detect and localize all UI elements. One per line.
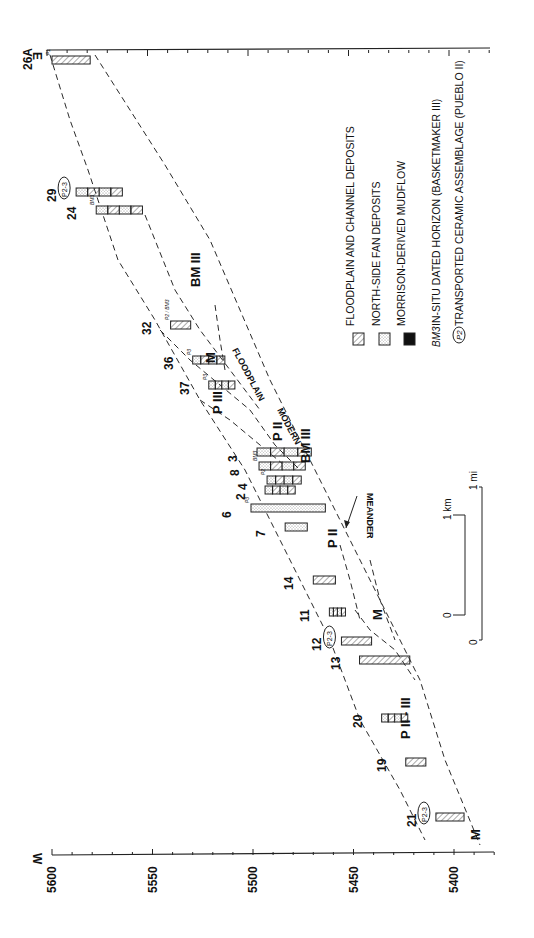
mi-one-label: 1 mi bbox=[468, 471, 479, 490]
section-column-19: 19 bbox=[375, 758, 426, 772]
fan-swatch bbox=[379, 333, 390, 345]
section-label: 29 bbox=[45, 188, 59, 202]
section-column-7: 7 bbox=[254, 523, 307, 537]
svg-text:P2-3: P2-3 bbox=[61, 182, 68, 197]
floodplain-swatch bbox=[353, 333, 364, 345]
section-label: 19 bbox=[375, 758, 389, 772]
legend-item-bm3: BM3 IN-SITU DATED HORIZON (BASKETMAKER I… bbox=[430, 99, 442, 347]
svg-text:P2-3: P2-3 bbox=[421, 807, 428, 822]
meander-arrowhead-icon bbox=[344, 520, 350, 528]
section-label: 3 bbox=[226, 455, 240, 462]
unit-label: P II bbox=[325, 529, 340, 548]
bm3-symbol: BM3 bbox=[431, 326, 442, 347]
horizon-annotation: BM3 bbox=[89, 195, 95, 206]
section-label: 11 bbox=[298, 609, 312, 622]
section-label: 14 bbox=[282, 576, 296, 590]
p2-symbol: P2 bbox=[455, 330, 464, 340]
legend-label-bm3: IN-SITU DATED HORIZON (BASKETMAKER III) bbox=[430, 99, 442, 326]
legend: FLOODPLAIN AND CHANNEL DEPOSITS NORTH-SI… bbox=[344, 60, 465, 347]
west-elevation-axis: 56005550550054505400 bbox=[45, 849, 494, 893]
section-column-12: 12P2-3 bbox=[310, 626, 371, 651]
section-column-21: 21P2-3 bbox=[405, 802, 464, 827]
section-label: 32 bbox=[140, 321, 154, 335]
km-one-label: 1 km bbox=[442, 498, 453, 520]
section-column-26A: 26AP1 bbox=[21, 48, 90, 70]
unit-label: P II bbox=[270, 422, 285, 441]
section-column-29: 29P2-3 bbox=[45, 177, 122, 202]
horizon-annotation: P2 bbox=[260, 469, 266, 475]
km-scale-line bbox=[453, 515, 465, 615]
section-label: 26A bbox=[21, 48, 35, 70]
legend-label-floodplain: FLOODPLAIN AND CHANNEL DEPOSITS bbox=[344, 126, 356, 326]
geologic-cross-section: 56005550550054505400 E W FLOODPLAIN MODE… bbox=[0, 0, 534, 938]
east-elevation-axis bbox=[47, 48, 490, 56]
legend-label-mudflow: MORRISON-DERIVED MUDFLOW bbox=[395, 161, 407, 326]
horizon-annotation: P1 bbox=[45, 49, 51, 55]
elevation-tick-label: 5500 bbox=[246, 866, 260, 893]
section-label: 20 bbox=[351, 714, 365, 728]
legend-item-fan: NORTH-SIDE FAN DEPOSITS bbox=[370, 182, 390, 346]
meander-label: MEANDER bbox=[365, 493, 375, 539]
legend-item-p2: P2 TRANSPORTED CERAMIC ASSEMBLAGE (PUEBL… bbox=[453, 60, 465, 343]
elevation-tick-label: 5550 bbox=[146, 866, 160, 893]
floodplain-label: FLOODPLAIN bbox=[230, 346, 266, 402]
section-column-11: 11 bbox=[298, 608, 345, 622]
section-label: 8 bbox=[228, 469, 242, 476]
section-column-37: 37P3 bbox=[178, 374, 235, 395]
section-label: 13 bbox=[329, 656, 343, 670]
section-label: 24 bbox=[65, 206, 79, 220]
unit-label: BM III bbox=[188, 252, 203, 287]
mudflow-swatch bbox=[404, 333, 415, 345]
elevation-tick-label: 5400 bbox=[447, 866, 461, 893]
west-direction-label: W bbox=[30, 853, 44, 865]
elevation-tick-label: 5600 bbox=[45, 866, 59, 893]
legend-item-mudflow: MORRISON-DERIVED MUDFLOW bbox=[395, 161, 415, 345]
section-label: 12 bbox=[310, 637, 324, 651]
horizon-annotation: P3 bbox=[186, 349, 192, 355]
section-column-13: 13 bbox=[329, 656, 410, 670]
unit-label: M bbox=[468, 829, 483, 840]
mi-scale-line bbox=[479, 487, 482, 640]
legend-item-floodplain: FLOODPLAIN AND CHANNEL DEPOSITS bbox=[344, 126, 364, 345]
legend-label-p2: TRANSPORTED CERAMIC ASSEMBLAGE (PUEBLO I… bbox=[453, 60, 465, 326]
unit-label: BM III bbox=[298, 428, 313, 463]
section-column-24: 24BM3 bbox=[65, 195, 142, 221]
section-label: 37 bbox=[178, 381, 192, 395]
unit-label: P III bbox=[210, 391, 225, 414]
unit-label: P II - III bbox=[398, 697, 413, 739]
scale-bar: 0 1 km 0 1 mi bbox=[442, 471, 482, 645]
svg-text:P2-3: P2-3 bbox=[326, 631, 333, 646]
section-column-14: 14 bbox=[282, 576, 335, 590]
unit-label: M bbox=[370, 609, 385, 620]
legend-label-fan: NORTH-SIDE FAN DEPOSITS bbox=[370, 182, 382, 327]
mi-zero-label: 0 bbox=[468, 639, 479, 645]
section-label: 36 bbox=[162, 356, 176, 370]
section-label: 6 bbox=[220, 511, 234, 518]
section-column-32: 32P2 / BM3 bbox=[140, 299, 191, 335]
section-label: 21 bbox=[405, 813, 419, 827]
horizon-annotation: P3 bbox=[202, 374, 208, 380]
km-zero-label: 0 bbox=[442, 612, 453, 618]
section-label: 7 bbox=[254, 530, 268, 537]
elevation-tick-label: 5450 bbox=[347, 866, 361, 893]
horizon-annotation: BM3 bbox=[252, 451, 258, 462]
horizon-annotation: P2 / BM3 bbox=[164, 299, 170, 320]
section-label: 4 bbox=[236, 483, 250, 490]
horizon-annotation: P3 bbox=[244, 497, 250, 503]
unit-label: M bbox=[203, 352, 218, 363]
